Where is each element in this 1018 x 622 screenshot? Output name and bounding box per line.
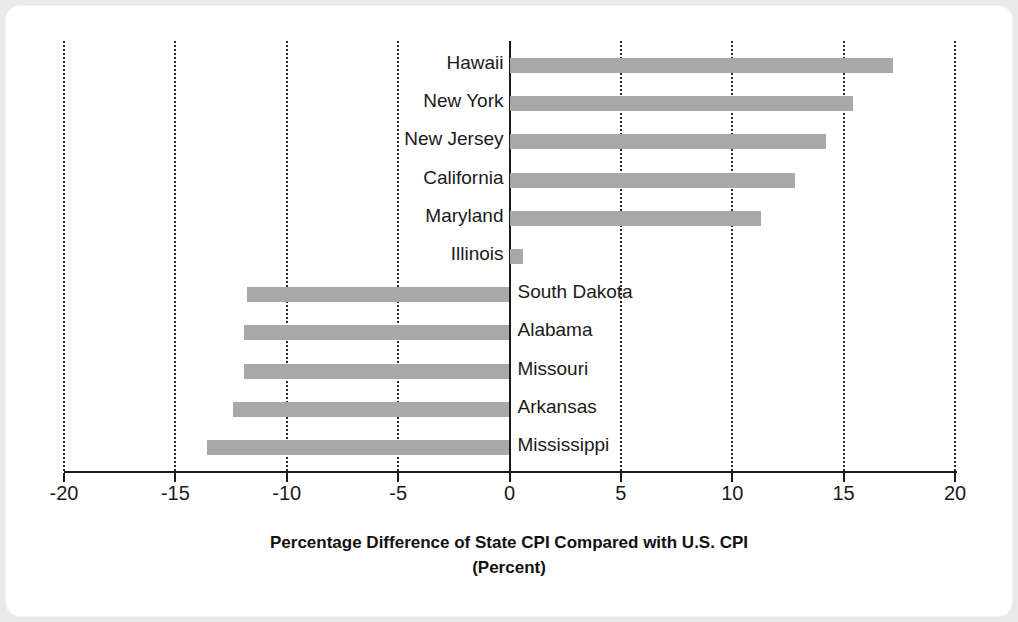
plot-area: HawaiiNew YorkNew JerseyCaliforniaMaryla…	[64, 41, 955, 471]
x-tick-label--5: -5	[389, 482, 407, 505]
x-tick-label-20: 20	[944, 482, 966, 505]
x-tick-label--15: -15	[161, 482, 190, 505]
bar-new-york	[510, 96, 853, 111]
category-label-hawaii: Hawaii	[446, 55, 503, 70]
category-label-alabama: Alabama	[518, 322, 593, 337]
x-axis-title-line1: Percentage Difference of State CPI Compa…	[270, 533, 748, 552]
x-axis-title-line2: (Percent)	[6, 555, 1012, 580]
x-tick--20	[63, 473, 65, 482]
category-label-california: California	[423, 170, 503, 185]
bar-california	[510, 173, 795, 188]
bar-alabama	[244, 325, 509, 340]
bar-mississippi	[207, 440, 510, 455]
gridline-20	[954, 41, 956, 471]
x-tick-label--20: -20	[50, 482, 79, 505]
category-label-mississippi: Mississippi	[518, 437, 610, 452]
bar-arkansas	[233, 402, 509, 417]
x-tick-label-5: 5	[615, 482, 626, 505]
bar-chart-figure: HawaiiNew YorkNew JerseyCaliforniaMaryla…	[6, 6, 1012, 616]
gridline--15	[174, 41, 176, 471]
bar-illinois	[510, 249, 523, 264]
bar-new-jersey	[510, 134, 826, 149]
x-tick-label-10: 10	[721, 482, 743, 505]
bar-missouri	[244, 364, 509, 379]
chart-card: HawaiiNew YorkNew JerseyCaliforniaMaryla…	[6, 6, 1012, 616]
x-tick-10	[731, 473, 733, 482]
x-tick-5	[620, 473, 622, 482]
bar-hawaii	[510, 58, 893, 73]
x-tick-20	[954, 473, 956, 482]
gridline--20	[63, 41, 65, 471]
category-label-maryland: Maryland	[425, 208, 503, 223]
x-axis-line	[64, 471, 957, 473]
bar-south-dakota	[247, 287, 510, 302]
x-axis-title: Percentage Difference of State CPI Compa…	[6, 530, 1012, 580]
x-tick-label--10: -10	[272, 482, 301, 505]
category-label-arkansas: Arkansas	[518, 399, 597, 414]
x-tick--15	[174, 473, 176, 482]
x-tick-label-15: 15	[833, 482, 855, 505]
x-tick-label-0: 0	[504, 482, 515, 505]
x-tick-0	[509, 473, 511, 482]
category-label-missouri: Missouri	[518, 361, 589, 376]
category-label-south-dakota: South Dakota	[518, 284, 633, 299]
x-tick--10	[286, 473, 288, 482]
x-tick-15	[843, 473, 845, 482]
category-label-new-jersey: New Jersey	[404, 131, 503, 146]
category-label-illinois: Illinois	[451, 246, 504, 261]
bar-maryland	[510, 211, 762, 226]
x-tick--5	[397, 473, 399, 482]
category-label-new-york: New York	[423, 93, 503, 108]
